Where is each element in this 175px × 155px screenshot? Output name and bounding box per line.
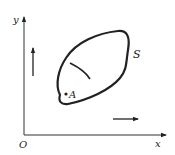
diagram-canvas: y O x S A [0, 0, 175, 155]
origin-label: O [19, 139, 27, 150]
inner-arc [70, 63, 90, 79]
y-axis-label: y [12, 14, 19, 25]
point-a-label: A [68, 89, 76, 100]
point-a-dot [64, 92, 67, 95]
region-label-s: S [133, 48, 141, 61]
x-axis-label: x [155, 138, 161, 149]
